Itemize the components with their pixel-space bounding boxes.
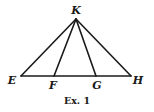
label-E: E [7, 74, 17, 87]
label-K: K [70, 4, 81, 17]
segment-KE [21, 19, 76, 76]
segment-KG [76, 19, 96, 76]
segment-KF [54, 19, 76, 76]
segment-KH [76, 19, 131, 76]
label-G: G [92, 79, 101, 92]
label-F: F [48, 79, 58, 92]
triangle-diagram: K E F G H Ex. 1 [0, 0, 154, 112]
labels-group: K E F G H [7, 4, 144, 92]
figure-caption: Ex. 1 [64, 95, 90, 106]
segments-group [21, 19, 131, 76]
label-H: H [132, 74, 144, 87]
